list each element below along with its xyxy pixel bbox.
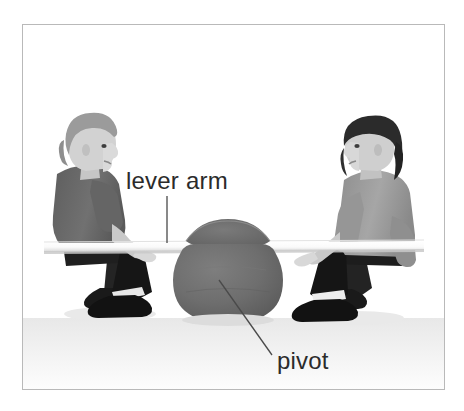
child-left-eye xyxy=(101,144,106,148)
child-left-ear xyxy=(82,144,90,156)
label-pivot: pivot xyxy=(277,347,329,375)
figure-root: lever arm pivot xyxy=(0,0,464,411)
child-right-eye xyxy=(354,144,359,148)
scene-illustration xyxy=(0,0,464,411)
pivot-drum-base-shadow xyxy=(182,314,274,326)
label-lever-arm: lever arm xyxy=(126,167,228,195)
child-right-ear xyxy=(374,144,382,156)
ground-plane xyxy=(23,318,444,389)
pivot-drum-body xyxy=(173,244,283,322)
